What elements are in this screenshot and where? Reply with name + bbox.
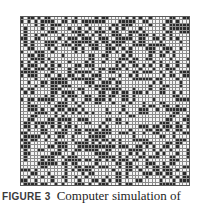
empty-site bbox=[68, 64, 70, 66]
empty-site bbox=[58, 179, 60, 181]
occupied-site bbox=[41, 68, 43, 70]
occupied-site bbox=[133, 31, 135, 33]
occupied-site bbox=[146, 159, 148, 161]
occupied-site bbox=[139, 149, 141, 151]
occupied-site bbox=[112, 88, 114, 90]
empty-site bbox=[41, 31, 43, 33]
occupied-site bbox=[166, 68, 168, 70]
empty-site bbox=[48, 142, 50, 144]
occupied-site bbox=[65, 78, 67, 80]
empty-site bbox=[28, 95, 30, 97]
occupied-site bbox=[35, 139, 37, 141]
occupied-site bbox=[62, 44, 64, 46]
empty-site bbox=[58, 98, 60, 100]
empty-site bbox=[126, 139, 128, 141]
occupied-site bbox=[28, 47, 30, 49]
occupied-site bbox=[129, 31, 131, 33]
occupied-site bbox=[133, 88, 135, 90]
occupied-site bbox=[143, 132, 145, 134]
empty-site bbox=[75, 152, 77, 154]
occupied-site bbox=[176, 78, 178, 80]
occupied-site bbox=[173, 159, 175, 161]
empty-site bbox=[146, 179, 148, 181]
empty-site bbox=[28, 132, 30, 134]
occupied-site bbox=[58, 102, 60, 104]
occupied-site bbox=[89, 132, 91, 134]
empty-site bbox=[143, 169, 145, 171]
occupied-site bbox=[68, 108, 70, 110]
occupied-site bbox=[180, 125, 182, 127]
occupied-site bbox=[38, 51, 40, 53]
empty-site bbox=[82, 64, 84, 66]
empty-site bbox=[170, 78, 172, 80]
occupied-site bbox=[65, 20, 67, 22]
empty-site bbox=[170, 64, 172, 66]
occupied-site bbox=[78, 149, 80, 151]
occupied-site bbox=[82, 183, 84, 185]
occupied-site bbox=[156, 166, 158, 168]
empty-site bbox=[176, 71, 178, 73]
occupied-site bbox=[78, 27, 80, 29]
occupied-site bbox=[133, 98, 135, 100]
empty-site bbox=[149, 20, 151, 22]
occupied-site bbox=[176, 112, 178, 114]
empty-site bbox=[72, 54, 74, 56]
empty-site bbox=[136, 142, 138, 144]
empty-site bbox=[68, 17, 70, 19]
occupied-site bbox=[72, 162, 74, 164]
empty-site bbox=[176, 47, 178, 49]
occupied-site bbox=[68, 27, 70, 29]
occupied-site bbox=[65, 125, 67, 127]
empty-site bbox=[112, 51, 114, 53]
empty-site bbox=[102, 118, 104, 120]
empty-site bbox=[133, 27, 135, 29]
empty-site bbox=[78, 102, 80, 104]
occupied-site bbox=[176, 105, 178, 107]
occupied-site bbox=[106, 156, 108, 158]
occupied-site bbox=[170, 162, 172, 164]
empty-site bbox=[163, 115, 165, 117]
occupied-site bbox=[58, 37, 60, 39]
occupied-site bbox=[28, 129, 30, 131]
empty-site bbox=[45, 85, 47, 87]
occupied-site bbox=[89, 20, 91, 22]
empty-site bbox=[48, 85, 50, 87]
empty-site bbox=[89, 118, 91, 120]
empty-site bbox=[170, 145, 172, 147]
occupied-site bbox=[48, 102, 50, 104]
occupied-site bbox=[41, 166, 43, 168]
empty-site bbox=[78, 37, 80, 39]
empty-site bbox=[163, 129, 165, 131]
occupied-site bbox=[51, 95, 53, 97]
empty-site bbox=[129, 145, 131, 147]
occupied-site bbox=[72, 159, 74, 161]
occupied-site bbox=[85, 81, 87, 83]
empty-site bbox=[112, 61, 114, 63]
caption-text: Computer simulation of bbox=[57, 188, 181, 203]
empty-site bbox=[45, 145, 47, 147]
empty-site bbox=[99, 129, 101, 131]
empty-site bbox=[156, 47, 158, 49]
empty-site bbox=[28, 51, 30, 53]
empty-site bbox=[24, 112, 26, 114]
empty-site bbox=[38, 176, 40, 178]
empty-site bbox=[62, 172, 64, 174]
empty-site bbox=[55, 172, 57, 174]
empty-site bbox=[173, 88, 175, 90]
empty-site bbox=[92, 169, 94, 171]
empty-site bbox=[176, 102, 178, 104]
empty-site bbox=[166, 95, 168, 97]
empty-site bbox=[55, 54, 57, 56]
occupied-site bbox=[139, 37, 141, 39]
empty-site bbox=[78, 85, 80, 87]
empty-site bbox=[183, 47, 185, 49]
occupied-site bbox=[166, 169, 168, 171]
empty-site bbox=[68, 172, 70, 174]
empty-site bbox=[180, 115, 182, 117]
occupied-site bbox=[85, 37, 87, 39]
empty-site bbox=[35, 102, 37, 104]
empty-site bbox=[170, 102, 172, 104]
empty-site bbox=[45, 102, 47, 104]
empty-site bbox=[58, 169, 60, 171]
empty-site bbox=[72, 145, 74, 147]
